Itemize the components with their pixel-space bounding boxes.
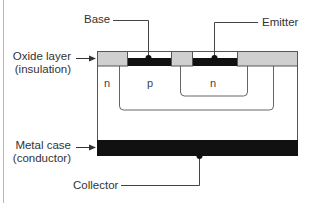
oxide-arrow-head: [89, 56, 96, 62]
base-label: Base: [84, 13, 110, 26]
semiconductor-body: [98, 52, 298, 156]
oxide-label-line1: Oxide layer: [6, 50, 71, 63]
oxide-block-middle: [172, 52, 193, 67]
oxide-label-line2: (insulation): [6, 63, 71, 76]
metal-label-line2: (conductor): [6, 152, 71, 165]
metal-case: [97, 140, 298, 156]
collector-lead: [121, 156, 200, 186]
emitter-contact-dot: [212, 55, 218, 61]
emitter-label: Emitter: [262, 16, 298, 29]
base-contact-dot: [146, 55, 152, 61]
collector-n-region-label: n: [104, 77, 110, 89]
oxide-block-left: [98, 52, 128, 67]
base-p-region-label: p: [147, 77, 153, 89]
oxide-block-right: [238, 52, 298, 67]
collector-contact-dot: [197, 153, 203, 159]
metal-arrow-head: [89, 145, 96, 151]
metal-label-line1: Metal case: [6, 139, 71, 152]
emitter-n-region-label: n: [210, 77, 216, 89]
transistor-diagram: [0, 0, 315, 203]
collector-label: Collector: [73, 179, 118, 192]
